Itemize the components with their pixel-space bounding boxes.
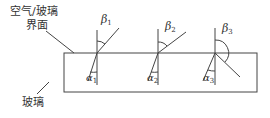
- alpha2-label: α2: [147, 72, 158, 85]
- interface-leader-line: [46, 31, 74, 53]
- beta1-label: β1: [100, 13, 112, 27]
- glass-leader-line: [37, 82, 49, 94]
- reflected-ray-3: [215, 53, 240, 77]
- refracted-ray-1: [97, 28, 119, 53]
- beta2-label: β2: [164, 20, 176, 34]
- beta3-label: β3: [221, 22, 233, 36]
- case-1: β1 α1: [86, 13, 119, 85]
- glass-label: 玻璃: [22, 95, 44, 109]
- beta3-arc: [215, 40, 229, 62]
- interface-label-line1: 空气/玻璃: [10, 4, 58, 18]
- refraction-diagram: 空气/玻璃 界面 玻璃 β1 α1 β2 α2 β3 α3: [0, 0, 270, 118]
- beta1-arc: [97, 41, 105, 44]
- beta2-arc: [158, 42, 167, 46]
- alpha3-arc: [208, 70, 215, 71]
- interface-label-line2: 界面: [26, 19, 48, 32]
- alpha1-label: α1: [86, 72, 97, 85]
- alpha3-label: α3: [203, 72, 214, 85]
